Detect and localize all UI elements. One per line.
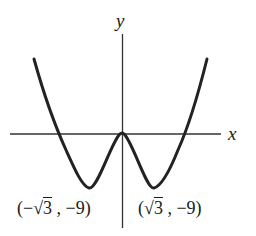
left-minimum-label: (−√3 , −9) <box>17 199 91 217</box>
x-axis-label: x <box>228 124 236 143</box>
sqrt-symbol: √ <box>144 198 154 218</box>
right-min-rest: , −9) <box>163 198 202 218</box>
right-min-radicand: 3 <box>154 198 163 218</box>
sqrt-symbol: √ <box>33 198 43 218</box>
y-axis-label: y <box>116 11 124 30</box>
quartic-curve <box>34 59 207 188</box>
right-minimum-label: (√3 , −9) <box>138 199 202 217</box>
left-min-open: (− <box>17 198 33 218</box>
left-min-radicand: 3 <box>43 198 52 218</box>
left-min-rest: , −9) <box>52 198 91 218</box>
